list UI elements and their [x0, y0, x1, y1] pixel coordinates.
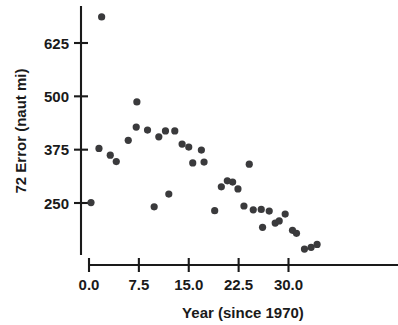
x-axis-tick-labels: 0.07.515.022.530.0: [79, 276, 304, 293]
data-point: [250, 206, 257, 213]
data-point: [234, 185, 241, 192]
data-point: [313, 241, 320, 248]
data-point: [189, 159, 196, 166]
y-tick-label: 625: [44, 35, 69, 52]
data-point: [133, 123, 140, 130]
data-point: [211, 207, 218, 214]
plot-canvas: 250375500625 0.07.515.022.530.0 72 Error…: [0, 0, 398, 325]
data-point: [200, 158, 207, 165]
data-point: [282, 210, 289, 217]
data-point: [95, 145, 102, 152]
data-point: [113, 158, 120, 165]
x-tick-label: 30.0: [274, 276, 303, 293]
y-tick-label: 375: [44, 141, 69, 158]
x-tick-label: 0.0: [79, 276, 100, 293]
data-point: [185, 144, 192, 151]
data-point: [229, 178, 236, 185]
data-point: [301, 245, 308, 252]
y-axis-tick-labels: 250375500625: [44, 35, 69, 212]
data-point: [87, 199, 94, 206]
data-point: [293, 230, 300, 237]
data-point: [246, 161, 253, 168]
x-tick-label: 22.5: [224, 276, 253, 293]
data-point: [240, 202, 247, 209]
data-point: [266, 208, 273, 215]
data-point: [144, 126, 151, 133]
data-point: [125, 137, 132, 144]
data-point: [259, 224, 266, 231]
data-point: [151, 203, 158, 210]
data-point: [155, 133, 162, 140]
scatter-plot-figure: 250375500625 0.07.515.022.530.0 72 Error…: [0, 0, 398, 325]
x-axis-title: Year (since 1970): [182, 304, 304, 321]
data-point: [107, 152, 114, 159]
data-point: [162, 127, 169, 134]
data-point: [218, 183, 225, 190]
y-tick-label: 500: [44, 88, 69, 105]
data-point: [276, 217, 283, 224]
data-point: [165, 190, 172, 197]
data-point: [171, 127, 178, 134]
data-points-layer: [87, 13, 320, 252]
data-point: [179, 141, 186, 148]
data-point: [198, 146, 205, 153]
data-point: [133, 98, 140, 105]
y-tick-label: 250: [44, 195, 69, 212]
x-tick-label: 15.0: [174, 276, 203, 293]
x-tick-label: 7.5: [128, 276, 149, 293]
y-axis-title: 72 Error (naut mi): [12, 68, 29, 193]
data-point: [258, 206, 265, 213]
data-point: [98, 13, 105, 20]
